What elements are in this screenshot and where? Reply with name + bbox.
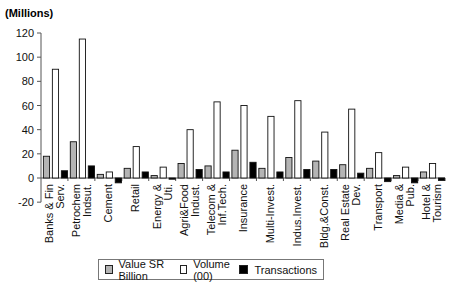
bars bbox=[43, 39, 444, 183]
svg-text:Cement: Cement bbox=[102, 184, 114, 223]
y-tick-label: 60 bbox=[22, 100, 34, 112]
bar bbox=[412, 178, 418, 183]
bar bbox=[106, 172, 112, 178]
x-tick-label: Bldg.&Const. bbox=[318, 184, 330, 248]
bar bbox=[429, 164, 435, 179]
bar bbox=[196, 170, 202, 178]
bar bbox=[331, 170, 337, 178]
bar bbox=[70, 142, 76, 178]
y-tick-label: 20 bbox=[22, 148, 34, 160]
y-tick-label: 0 bbox=[28, 172, 34, 184]
bar bbox=[52, 69, 58, 178]
bar bbox=[385, 178, 391, 182]
y-tick-label: -20 bbox=[18, 196, 34, 208]
bar bbox=[250, 162, 256, 178]
svg-text:Multi-Invest.: Multi-Invest. bbox=[264, 184, 276, 243]
bar bbox=[223, 172, 229, 178]
legend-label-value: Value SR Billion bbox=[119, 258, 180, 282]
bar bbox=[340, 165, 346, 178]
y-axis-unit-label: (Millions) bbox=[5, 7, 54, 19]
bar bbox=[367, 168, 373, 178]
bar bbox=[214, 102, 220, 178]
svg-text:Dev.: Dev. bbox=[350, 184, 362, 206]
bar bbox=[358, 173, 364, 178]
svg-text:Indsut.: Indsut. bbox=[81, 184, 93, 217]
bar bbox=[43, 156, 49, 178]
bar bbox=[232, 150, 238, 178]
bar bbox=[438, 178, 444, 180]
bar bbox=[322, 132, 328, 178]
legend-item-value: Value SR Billion bbox=[105, 258, 180, 282]
bar bbox=[79, 39, 85, 178]
svg-text:Indust.: Indust. bbox=[189, 184, 201, 217]
bar bbox=[124, 168, 130, 178]
legend-swatch-value bbox=[105, 265, 113, 274]
bar bbox=[349, 109, 355, 178]
bar bbox=[61, 171, 67, 178]
bar bbox=[304, 170, 310, 178]
x-axis-labels: Banks & FinServ.PetrochemIndsut.CementRe… bbox=[43, 183, 443, 248]
svg-text:Inf.Tech.: Inf.Tech. bbox=[216, 184, 228, 226]
legend-label-transactions: Transactions bbox=[254, 264, 317, 276]
x-tick-label: Media &Pub. bbox=[393, 183, 416, 224]
bar bbox=[151, 176, 157, 178]
bar bbox=[169, 178, 175, 179]
legend-item-volume: Volume (00) bbox=[180, 258, 240, 282]
svg-text:Indus.Invest.: Indus.Invest. bbox=[291, 184, 303, 246]
svg-text:Retail: Retail bbox=[129, 184, 141, 212]
bar bbox=[376, 153, 382, 178]
svg-text:Serv.: Serv. bbox=[54, 184, 66, 209]
y-tick-label: 120 bbox=[16, 27, 34, 39]
x-tick-label: Real EstateDev. bbox=[339, 184, 362, 241]
bar bbox=[295, 101, 301, 178]
x-tick-label: Cement bbox=[102, 184, 114, 223]
x-tick-label: Retail bbox=[129, 184, 141, 212]
svg-text:Bldg.&Const.: Bldg.&Const. bbox=[318, 184, 330, 248]
bar bbox=[277, 172, 283, 178]
x-tick-label: Multi-Invest. bbox=[264, 184, 276, 243]
bar bbox=[286, 157, 292, 178]
bar bbox=[394, 176, 400, 178]
bar bbox=[403, 167, 409, 178]
svg-text:Pub.: Pub. bbox=[404, 184, 416, 207]
legend-label-volume: Volume (00) bbox=[193, 258, 239, 282]
x-tick-label: PetrochemIndsut. bbox=[70, 184, 93, 237]
x-tick-label: Indus.Invest. bbox=[291, 184, 303, 246]
legend-item-transactions: Transactions bbox=[239, 264, 317, 276]
legend: Value SR Billion Volume (00) Transaction… bbox=[98, 259, 324, 280]
y-tick-label: 80 bbox=[22, 75, 34, 87]
x-tick-label: Banks & FinServ. bbox=[43, 184, 66, 243]
y-tick-label: 40 bbox=[22, 124, 34, 136]
bar bbox=[88, 166, 94, 178]
svg-text:Insurance: Insurance bbox=[237, 184, 249, 232]
bar bbox=[205, 166, 211, 178]
bar bbox=[420, 172, 426, 178]
legend-swatch-volume bbox=[180, 265, 187, 274]
x-tick-label: Energy &Uti. bbox=[151, 183, 174, 229]
bar bbox=[178, 164, 184, 179]
bar bbox=[97, 174, 103, 178]
bar-chart: (Millions) -20020406080100120 Banks & Fi… bbox=[0, 0, 449, 292]
x-tick-label: Hotel &Tourism bbox=[420, 183, 443, 222]
bar bbox=[133, 147, 139, 178]
bar bbox=[142, 172, 148, 178]
x-tick-label: Agri&FoodIndust. bbox=[178, 184, 201, 236]
x-tick-label: Transport bbox=[372, 184, 384, 231]
svg-text:Transport: Transport bbox=[372, 184, 384, 231]
x-tick-label: Insurance bbox=[237, 184, 249, 232]
bar bbox=[241, 106, 247, 179]
bar bbox=[115, 178, 121, 183]
bar bbox=[160, 167, 166, 178]
bar bbox=[313, 161, 319, 178]
x-tick-label: Telecom &Inf.Tech. bbox=[205, 183, 228, 235]
bar bbox=[187, 130, 193, 178]
svg-text:Uti.: Uti. bbox=[162, 184, 174, 201]
svg-text:Tourism: Tourism bbox=[431, 184, 443, 223]
y-tick-label: 100 bbox=[16, 51, 34, 63]
bar bbox=[259, 168, 265, 178]
legend-swatch-transactions bbox=[239, 265, 248, 274]
bar bbox=[268, 116, 274, 178]
